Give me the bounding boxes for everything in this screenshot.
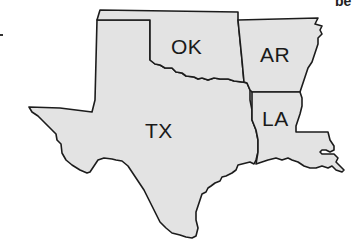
label-tx: TX [145,120,173,141]
label-ar: AR [260,44,290,65]
label-ok: OK [171,36,202,57]
state-louisiana[interactable] [252,92,344,172]
label-la: LA [262,108,289,129]
margin-mark [0,34,3,36]
cropped-heading-text: be [335,0,351,8]
